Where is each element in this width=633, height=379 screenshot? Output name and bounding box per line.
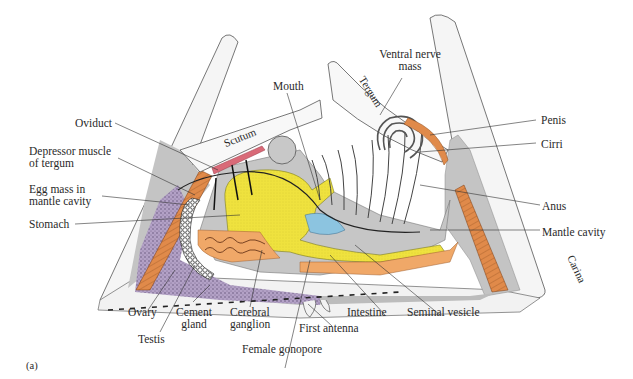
label-female-gonopore: Female gonopore: [242, 343, 322, 355]
label-oviduct: Oviduct: [75, 117, 112, 129]
label-mouth: Mouth: [273, 80, 304, 92]
label-testis: Testis: [138, 333, 165, 345]
label-cirri: Cirri: [541, 138, 563, 150]
label-cement-gland-line1: Cement: [170, 306, 218, 318]
label-stomach: Stomach: [29, 218, 69, 230]
label-ventral-nerve-mass-line2: mass: [360, 60, 460, 72]
label-ovary: Ovary: [128, 306, 157, 318]
label-ventral-nerve-mass-line1: Ventral nerve: [360, 48, 460, 60]
label-first-antenna: First antenna: [299, 322, 359, 334]
label-cerebral-ganglion-line2: ganglion: [230, 318, 270, 330]
label-egg-mass-line1: Egg mass in: [29, 183, 91, 195]
label-egg-mass: Egg mass in mantle cavity: [29, 183, 91, 207]
tergum-plate: [328, 61, 448, 162]
label-depressor-line1: Depressor muscle: [29, 145, 111, 157]
label-cerebral-ganglion-line1: Cerebral: [230, 306, 270, 318]
label-ventral-nerve-mass: Ventral nerve mass: [360, 48, 460, 72]
panel-label: (a): [26, 360, 38, 372]
mouth-cone: [268, 136, 296, 164]
label-depressor-line2: of tergum: [29, 157, 111, 169]
label-seminal-vesicle: Seminal vesicle: [407, 306, 480, 318]
label-penis: Penis: [541, 114, 566, 126]
label-anus: Anus: [542, 200, 566, 212]
label-egg-mass-line2: mantle cavity: [29, 195, 91, 207]
label-cement-gland-line2: gland: [170, 318, 218, 330]
label-intestine: Intestine: [347, 306, 387, 318]
label-depressor-muscle: Depressor muscle of tergum: [29, 145, 111, 169]
label-mantle-cavity: Mantle cavity: [542, 226, 606, 238]
label-cerebral-ganglion: Cerebral ganglion: [230, 306, 270, 330]
label-cement-gland: Cement gland: [170, 306, 218, 330]
